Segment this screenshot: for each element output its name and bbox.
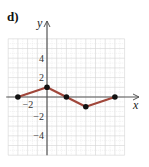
- y-axis-label: y: [36, 16, 43, 30]
- data-point: [15, 94, 21, 100]
- y-tick-label: 4: [39, 53, 44, 64]
- data-point: [44, 85, 50, 91]
- y-tick-label: 2: [39, 72, 44, 83]
- data-point: [83, 104, 89, 110]
- x-tick-label: −2: [23, 99, 34, 110]
- x-axis-label: x: [132, 98, 139, 112]
- chart-plot: xy −242−2−4: [0, 0, 149, 167]
- y-tick-label: −4: [33, 130, 44, 141]
- y-tick-label: −2: [33, 111, 44, 122]
- data-point: [64, 94, 70, 100]
- data-point: [112, 94, 118, 100]
- axes: xy: [6, 16, 139, 155]
